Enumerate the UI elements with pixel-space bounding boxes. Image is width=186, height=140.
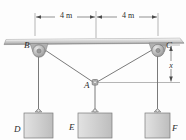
block-f-body	[145, 113, 170, 138]
cable-b-to-a	[45, 50, 93, 82]
block-e-body	[78, 113, 112, 138]
label-pulley-b: B	[24, 40, 30, 50]
block-d-group: D	[13, 109, 53, 139]
arrowhead-left-outer	[36, 15, 41, 19]
arrowhead-right-inner	[97, 15, 102, 19]
arrowhead-left-inner	[90, 15, 95, 19]
label-block-f: F	[171, 123, 178, 133]
ring-joint-a-pin	[94, 81, 97, 84]
block-d-body	[24, 113, 53, 138]
cable-a-to-c	[97, 50, 152, 82]
arrowhead-right-outer	[152, 15, 157, 19]
label-joint-a: A	[83, 80, 90, 90]
arrowhead-x-bottom	[169, 77, 173, 82]
dimension-label-left: 4 m	[60, 11, 73, 20]
block-f-group: F	[145, 109, 178, 139]
label-block-e: E	[68, 122, 75, 132]
diagram-canvas: 4 m 4 m B	[0, 0, 186, 140]
vertical-dimension-group: x	[98, 45, 180, 83]
label-block-d: D	[13, 124, 21, 134]
ring-joint-a-group: A	[83, 80, 98, 91]
block-e-group: E	[68, 109, 112, 139]
statics-figure: 4 m 4 m B	[0, 0, 186, 140]
block-e-eyelet	[94, 109, 97, 112]
block-f-eyelet	[156, 109, 159, 112]
dimension-label-right: 4 m	[122, 11, 135, 20]
horizontal-dimension-group: 4 m 4 m	[35, 11, 158, 39]
pulley-b-axle	[37, 49, 41, 53]
pulley-c-axle	[156, 48, 160, 52]
block-d-eyelet	[37, 109, 40, 112]
dimension-label-x: x	[168, 61, 173, 70]
